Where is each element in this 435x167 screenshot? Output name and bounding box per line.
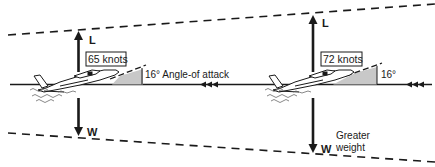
relative-wind-arrows-right — [406, 82, 424, 88]
speed-label-right: 72 knots — [323, 53, 363, 65]
lift-label-right: L — [322, 17, 329, 29]
lower-dashed-boundary — [8, 133, 435, 162]
relative-wind-arrows-left — [200, 82, 218, 88]
upper-dashed-boundary — [8, 4, 435, 35]
weight-label-left: W — [87, 126, 98, 138]
aoa-label-right: 16° — [381, 69, 396, 80]
aoa-label-left: 16° Angle-of attack — [145, 69, 230, 80]
greater-weight-label-line1: Greater — [336, 130, 371, 141]
speed-label-left: 65 knots — [88, 53, 128, 65]
lift-weight-diagram: L W 65 knots 16° Angle-of attack — [0, 0, 435, 167]
lift-label-left: L — [89, 34, 96, 46]
greater-weight-label-line2: weight — [335, 142, 365, 153]
weight-label-right: W — [321, 143, 332, 155]
